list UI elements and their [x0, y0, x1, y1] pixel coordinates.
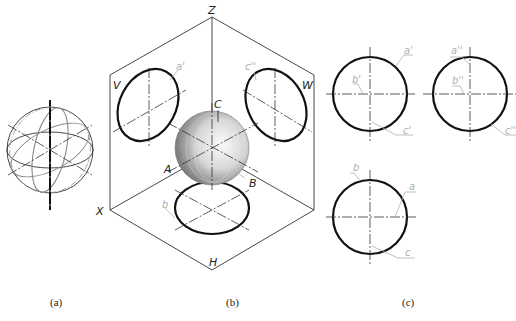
side-label-a: a'' [451, 45, 463, 56]
side-view: a'' b'' c'' [423, 45, 516, 142]
proj-label-b-top: b [162, 199, 168, 210]
caption-c: (c) [402, 296, 415, 309]
front-label-c: c' [403, 125, 411, 136]
top-label-a: a [409, 181, 415, 192]
drawing-canvas: Z X H V W C A B a' c'' b a' b' c' a'' b'… [0, 0, 516, 321]
caption-b: (b) [226, 296, 239, 309]
plane-label-v: V [113, 79, 122, 92]
front-label-b: b' [352, 74, 361, 85]
sphere [168, 103, 258, 190]
front-view: a' b' c' [326, 45, 415, 142]
caption-a: (a) [50, 296, 63, 309]
point-label-b: B [249, 177, 257, 190]
proj-label-a-front: a' [176, 61, 185, 72]
plane-label-h: H [209, 256, 217, 269]
plane-label-w: W [302, 79, 314, 92]
top-label-c: c [405, 247, 411, 258]
side-label-c: c'' [505, 125, 516, 136]
point-label-a: A [163, 163, 172, 176]
side-label-b: b'' [452, 75, 464, 86]
axis-label-z: Z [207, 4, 216, 17]
top-view: b a c [326, 162, 418, 265]
panel-a-sphere-wireframe [0, 96, 102, 210]
front-label-a: a' [404, 45, 413, 56]
point-label-c: C [214, 98, 222, 111]
axis-label-x: X [95, 205, 104, 218]
top-label-b: b [353, 162, 359, 173]
proj-label-c-side: c'' [245, 61, 256, 72]
